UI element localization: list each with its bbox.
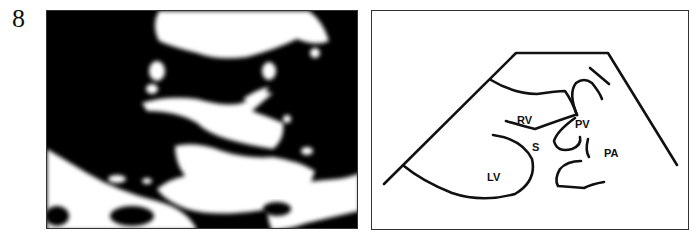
echo-texture xyxy=(47,11,358,229)
label-s: S xyxy=(532,141,539,153)
label-rv: RV xyxy=(517,114,533,126)
diagram-drawing: RV PV S PA LV xyxy=(372,11,690,231)
label-pa: PA xyxy=(604,147,619,159)
echocardiogram-image xyxy=(46,10,358,229)
label-pv: PV xyxy=(575,118,590,130)
figure-number: 8 xyxy=(12,4,25,34)
label-lv: LV xyxy=(487,171,501,183)
anatomy-diagram: RV PV S PA LV xyxy=(371,10,689,230)
